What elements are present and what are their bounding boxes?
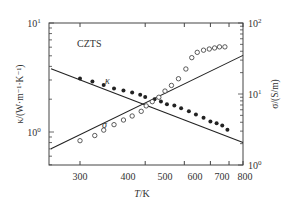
x-tick-labels: 300 400 500 600 700 800 <box>73 171 253 182</box>
kappa-point <box>220 123 224 127</box>
sigma-point <box>201 48 205 52</box>
sigma-point <box>212 46 216 50</box>
sigma-point <box>223 45 227 49</box>
x-tick-label: 500 <box>158 171 173 182</box>
kappa-point <box>78 76 82 80</box>
sigma-point <box>217 45 221 49</box>
x-tick-label: 800 <box>238 171 253 182</box>
kappa-point <box>130 91 134 95</box>
y-right-tick-label-bot: 100 <box>248 159 262 171</box>
kappa-point <box>143 95 147 99</box>
sigma-point <box>190 55 194 59</box>
kappa-point <box>187 109 191 113</box>
kappa-point <box>179 106 183 110</box>
sigma-point <box>157 95 161 99</box>
y-right-tick-label-top: 102 <box>248 17 262 29</box>
sigma-point <box>176 77 180 81</box>
kappa-point <box>138 93 142 97</box>
sigma-point <box>144 104 148 108</box>
y-left-axis-ticks <box>49 23 54 165</box>
y-right-axis-label: σ/(S/m) <box>270 79 281 108</box>
y-right-axis-ticks <box>238 23 243 165</box>
x-tick-label: 400 <box>121 171 136 182</box>
kappa-point <box>121 89 125 93</box>
kappa-point <box>194 112 198 116</box>
sigma-point <box>150 99 154 103</box>
sigma-point <box>139 109 143 113</box>
kappa-point <box>225 128 229 132</box>
kappa-point <box>159 100 163 104</box>
kappa-series-label: κ <box>105 75 110 86</box>
sigma-point <box>207 47 211 51</box>
kappa-data-points <box>78 76 229 131</box>
kappa-point <box>90 80 94 84</box>
kappa-point <box>215 121 219 125</box>
x-axis-label-unit: /K <box>140 188 151 199</box>
y-left-axis-label: κ/(W·m⁻¹·K⁻¹) <box>15 64 26 123</box>
kappa-point <box>202 116 206 120</box>
x-tick-label: 700 <box>215 171 230 182</box>
y-left-tick-label-mid: 100 <box>27 126 41 138</box>
x-axis-label: T/K <box>134 188 150 199</box>
sigma-fit-line <box>51 55 243 148</box>
x-axis-ticks <box>80 23 243 165</box>
y-left-tick-label-top: 101 <box>27 17 41 29</box>
x-tick-label: 300 <box>73 171 88 182</box>
kappa-point <box>172 104 176 108</box>
chart: 300 400 500 600 700 800 T/K 101 100 κ/(W… <box>0 0 289 203</box>
sigma-point <box>184 67 188 71</box>
sigma-point <box>163 89 167 93</box>
sigma-point <box>112 122 116 126</box>
kappa-point <box>208 119 212 123</box>
sigma-point <box>121 118 125 122</box>
sigma-series-label: σ <box>102 119 108 130</box>
material-annotation: CZTS <box>77 38 101 49</box>
sigma-point <box>130 114 134 118</box>
sigma-point <box>195 50 199 54</box>
y-right-tick-label-mid: 101 <box>248 88 262 100</box>
x-tick-label: 600 <box>188 171 203 182</box>
sigma-point <box>169 83 173 87</box>
sigma-point <box>93 133 97 137</box>
sigma-point <box>78 138 82 142</box>
kappa-point <box>112 87 116 91</box>
kappa-point <box>165 102 169 106</box>
